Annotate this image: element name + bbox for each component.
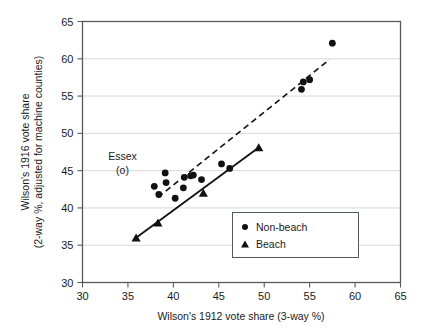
data-point-non-beach	[180, 184, 187, 191]
y-axis-title-line1: Wilson's 1916 vote share	[19, 93, 31, 210]
y-axis-title-line2: (2-way %, adjusted for machine counties)	[32, 56, 44, 249]
data-point-non-beach	[226, 165, 233, 172]
data-point-non-beach	[155, 191, 162, 198]
y-tick-label-60: 60	[61, 53, 73, 65]
x-tick-label-45: 45	[213, 290, 225, 302]
essex-annotation-line1: Essex	[108, 150, 137, 162]
x-axis-title: Wilson's 1912 vote share (3-way %)	[157, 310, 324, 322]
x-tick-label-55: 55	[304, 290, 316, 302]
y-tick-label-50: 50	[61, 127, 73, 139]
y-tick-label-40: 40	[61, 202, 73, 214]
y-tick-label-30: 30	[61, 277, 73, 289]
data-point-non-beach	[162, 169, 169, 176]
data-point-non-beach	[198, 176, 205, 183]
scatter-plot-svg: 3035404550556065 3035404550556065 Essex(…	[0, 0, 424, 336]
data-point-non-beach	[298, 86, 305, 93]
x-tick-label-60: 60	[349, 290, 361, 302]
y-tick-label-65: 65	[61, 16, 73, 28]
data-point-non-beach	[163, 179, 170, 186]
legend-marker-circle-icon	[242, 224, 248, 230]
data-point-non-beach	[329, 40, 336, 47]
y-tick-label-55: 55	[61, 90, 73, 102]
data-point-non-beach	[151, 183, 158, 190]
y-tick-label-45: 45	[61, 165, 73, 177]
data-point-non-beach	[218, 161, 225, 168]
data-point-non-beach	[181, 174, 188, 181]
legend-box	[233, 213, 359, 258]
data-point-non-beach	[300, 79, 307, 86]
legend-label-non-beach: Non-beach	[256, 221, 308, 233]
x-tick-label-40: 40	[167, 290, 179, 302]
x-tick-label-35: 35	[122, 290, 134, 302]
x-tick-label-50: 50	[258, 290, 270, 302]
data-point-non-beach	[172, 195, 179, 202]
legend-label-beach: Beach	[256, 238, 286, 250]
data-point-non-beach	[190, 172, 197, 179]
chart-legend: Non-beach Beach	[233, 213, 359, 258]
x-tick-label-30: 30	[76, 290, 88, 302]
data-point-non-beach	[306, 76, 313, 83]
chart-figure: 3035404550556065 3035404550556065 Essex(…	[0, 0, 424, 336]
x-tick-label-65: 65	[394, 290, 406, 302]
essex-annotation-line2: (o)	[116, 164, 129, 176]
y-tick-label-35: 35	[61, 239, 73, 251]
